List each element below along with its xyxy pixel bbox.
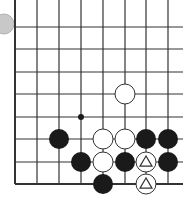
gray-stone-icon [0, 14, 14, 34]
go-board [0, 0, 195, 203]
black-stone [158, 129, 178, 149]
white-stone [93, 129, 113, 149]
white-stone [115, 129, 135, 149]
star-points [78, 114, 84, 120]
black-stone [49, 129, 69, 149]
white-stone [93, 152, 113, 172]
black-stone [71, 152, 91, 172]
black-stone [115, 152, 135, 172]
black-stone [93, 174, 113, 194]
black-stone [136, 129, 156, 149]
to-play-marker-stone [0, 14, 14, 34]
black-stone [158, 152, 178, 172]
white-stone [115, 84, 135, 104]
star-point-icon [78, 114, 84, 120]
stones-layer [49, 84, 178, 194]
